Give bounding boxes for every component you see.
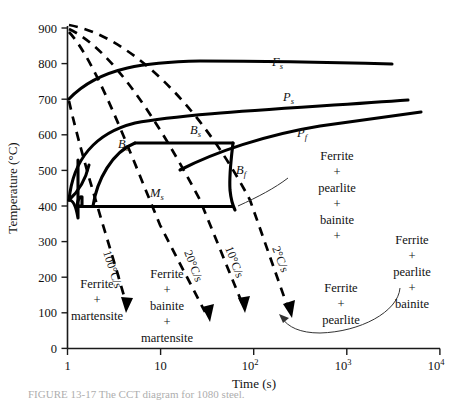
label-ps: Ps [282, 90, 295, 106]
y-tick-label: 100 [38, 306, 57, 320]
curve-pf [180, 112, 421, 170]
y-axis-title: Temperature (°C) [5, 142, 20, 233]
region-ferrite-pearlite: Ferrite + pearlite [322, 281, 360, 327]
arrowhead-2 [283, 300, 295, 318]
y-tick-label: 600 [38, 128, 57, 142]
y-tick-label: 900 [38, 22, 57, 36]
cooling-curve-20 [69, 32, 205, 312]
y-ticks [62, 28, 68, 348]
cooling-curve-10 [69, 29, 242, 303]
curve-labels-group: Fs Ps Pf Bs Bs Bf Ms [118, 55, 309, 202]
region-ferrite-bainite-martensite: Ferrite + bainite + martensite [141, 267, 194, 345]
curve-fs [69, 61, 392, 99]
region-line: + [408, 249, 415, 263]
pointer-arrowhead [279, 314, 289, 323]
curve-bf [230, 143, 235, 210]
region-line: + [163, 283, 170, 297]
region-ferrite-pearlite-bainite-martensite: Ferrite + pearlite + bainite + [318, 149, 356, 243]
x-tick-label: 102 [242, 357, 259, 373]
figure-caption: FIGURE 13-17 The CCT diagram for 1080 st… [28, 388, 245, 400]
y-tick-label: 500 [38, 164, 57, 178]
cct-diagram-svg: 900 800 700 600 500 400 300 200 100 0 [0, 0, 466, 402]
y-tick-label: 400 [38, 200, 57, 214]
x-tick-label: 1 [64, 359, 70, 373]
region-line: + [163, 315, 170, 329]
label-bf: Bf [236, 163, 248, 179]
x-tick-labels: 1 10 102 103 104 [64, 357, 445, 373]
region-line: Ferrite [320, 149, 354, 163]
region-ferrite-pearlite-bainite: Ferrite + pearlite + bainite [393, 233, 431, 311]
arrowhead-10 [238, 296, 250, 313]
pointer-arrow-path-2 [238, 178, 288, 206]
label-fs: Fs [271, 55, 284, 71]
label-bs-left: Bs [118, 137, 130, 153]
region-line: Ferrite [150, 267, 184, 281]
region-line: + [333, 229, 340, 243]
x-tick-label: 104 [428, 357, 446, 373]
arrowhead-20 [202, 304, 214, 322]
region-line: + [333, 165, 340, 179]
y-tick-label: 0 [51, 342, 57, 356]
region-line: bainite [320, 213, 354, 227]
region-line: bainite [395, 297, 429, 311]
region-line: + [337, 297, 344, 311]
x-ticks [68, 349, 440, 356]
pointer-arrow-group [238, 178, 400, 333]
region-line: Ferrite [80, 277, 114, 291]
y-tick-label: 200 [38, 271, 57, 285]
cooling-curve-2 [69, 25, 288, 308]
region-line: Ferrite [324, 281, 358, 295]
region-line: Ferrite [395, 233, 429, 247]
region-labels-group: Ferrite + martensite Ferrite + bainite +… [71, 149, 431, 345]
region-line: pearlite [322, 313, 360, 327]
region-line: + [333, 197, 340, 211]
rate-label-10: 10°C/s [222, 244, 247, 280]
region-line: pearlite [318, 181, 356, 195]
cooling-rate-labels-group: 100°C/s 20°C/s 10°C/s 2°C/s [100, 244, 292, 290]
x-tick-label: 10 [154, 359, 167, 373]
figure-container: 900 800 700 600 500 400 300 200 100 0 [0, 0, 466, 402]
y-tick-label: 800 [38, 57, 57, 71]
label-ms: Ms [149, 186, 164, 202]
region-line: + [408, 281, 415, 295]
y-tick-label: 700 [38, 93, 57, 107]
x-tick-label: 103 [335, 357, 352, 373]
y-tick-labels: 900 800 700 600 500 400 300 200 100 0 [38, 22, 57, 356]
rate-label-20: 20°C/s [181, 248, 206, 284]
region-line: martensite [141, 331, 194, 345]
label-bs-right: Bs [190, 123, 202, 139]
region-line: pearlite [393, 265, 431, 279]
y-tick-label: 300 [38, 235, 57, 249]
rate-label-2: 2°C/s [269, 244, 292, 274]
region-line: martensite [71, 309, 124, 323]
region-line: + [93, 293, 100, 307]
region-line: bainite [150, 299, 184, 313]
